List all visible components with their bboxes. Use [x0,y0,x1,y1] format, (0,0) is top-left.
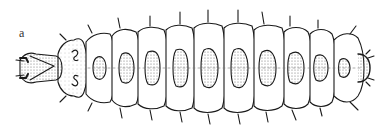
larva-thorax [58,34,88,102]
larva-illustration: a [0,0,384,136]
larva-drawing [0,0,384,136]
larva-abdomen [86,10,374,124]
larva-head [16,53,62,83]
